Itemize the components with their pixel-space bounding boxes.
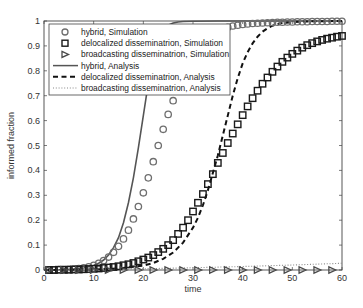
- y-tick-label: 0.3: [27, 190, 40, 200]
- square-marker: [225, 140, 231, 146]
- y-tick-label: 0.2: [27, 215, 40, 225]
- x-tick-label: 30: [188, 273, 198, 283]
- y-tick-label: 0.6: [27, 116, 40, 126]
- square-marker: [259, 81, 265, 87]
- legend-entry-label: broadcasting disseminatrion, Simulation: [81, 49, 229, 59]
- y-tick-label: 1: [35, 16, 40, 26]
- y-tick-label: 0.1: [27, 240, 40, 250]
- circle-marker: [170, 97, 176, 103]
- y-tick-label: 0.8: [27, 66, 40, 76]
- legend-entry-label: delocalized disseminatrion, Simulation: [81, 38, 223, 48]
- circle-marker: [120, 236, 126, 242]
- square-marker: [180, 224, 186, 230]
- x-tick-label: 0: [41, 273, 46, 283]
- circle-marker: [145, 175, 151, 181]
- square-marker: [230, 130, 236, 136]
- square-marker: [175, 231, 181, 237]
- x-tick-label: 10: [89, 273, 99, 283]
- y-tick-label: 0.5: [27, 141, 40, 151]
- square-marker: [185, 217, 191, 223]
- y-tick-label: 0: [35, 265, 40, 275]
- y-tick-label: 0.7: [27, 91, 40, 101]
- legend-entry-label: hybrid, Simulation: [81, 27, 148, 37]
- y-axis-label: informed fraction: [6, 112, 16, 179]
- square-marker: [235, 121, 241, 127]
- legend: hybrid, Simulationdelocalized disseminat…: [49, 24, 230, 95]
- x-tick-label: 40: [238, 273, 248, 283]
- circle-marker: [155, 142, 161, 148]
- x-tick-label: 20: [138, 273, 148, 283]
- square-marker: [220, 150, 226, 156]
- circle-marker: [115, 243, 121, 249]
- circle-marker: [160, 126, 166, 132]
- circle-marker: [165, 111, 171, 117]
- square-marker: [249, 95, 255, 101]
- circle-marker: [150, 158, 156, 164]
- x-axis-label: time: [184, 284, 201, 294]
- square-marker: [195, 200, 201, 206]
- x-tick-label: 50: [287, 273, 297, 283]
- circle-marker: [130, 216, 136, 222]
- circle-marker: [140, 190, 146, 196]
- legend-entry-label: hybrid, Analysis: [81, 61, 139, 71]
- square-marker: [190, 208, 196, 214]
- square-marker: [244, 103, 250, 109]
- line-chart: 010203040506000.10.20.30.40.50.60.70.80.…: [0, 0, 363, 308]
- square-marker: [239, 112, 245, 118]
- legend-entry-label: broadcasting disseminatrion, Analysis: [81, 83, 221, 93]
- circle-marker: [135, 203, 141, 209]
- square-marker: [254, 88, 260, 94]
- y-tick-label: 0.4: [27, 165, 40, 175]
- circle-marker: [125, 227, 131, 233]
- x-tick-label: 60: [337, 273, 347, 283]
- y-tick-label: 0.9: [27, 41, 40, 51]
- legend-entry-label: delocalized disseminatrion, Analysis: [81, 72, 215, 82]
